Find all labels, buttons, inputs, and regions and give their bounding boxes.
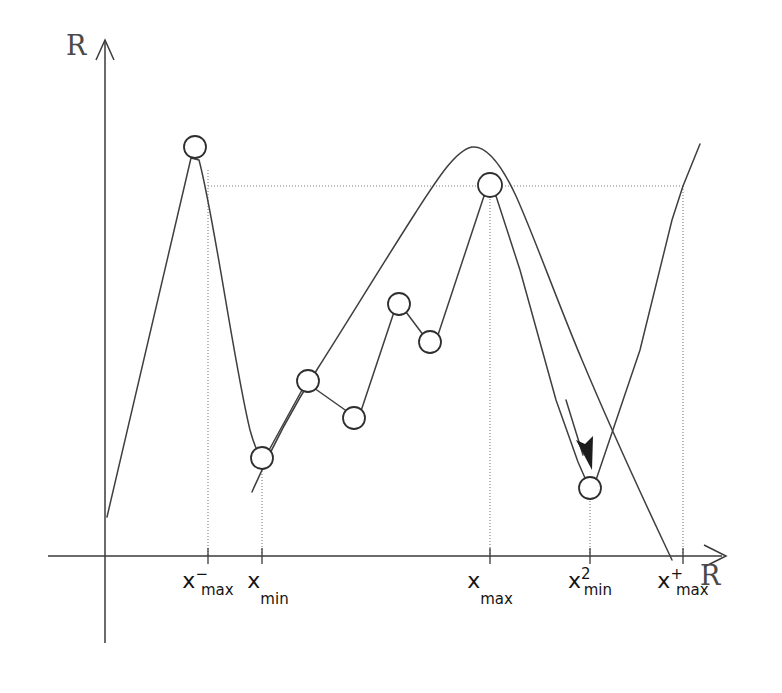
tick-label-x-max: xmax [467,568,513,608]
marker-iterate-3 [297,370,319,392]
tick-sub: max [676,581,709,599]
tick-label-x-min: xmin [247,568,288,608]
tick-base: x [467,568,480,593]
tick-base: x [247,568,260,593]
marker-iterate-6 [419,331,441,353]
guide-lines-group [208,170,683,556]
tick-label-x-min-2: x2min [568,565,612,599]
marker-iterate-5 [388,293,410,315]
tick-label-x-max-minus: x−max [182,565,233,599]
tick-base: x [182,568,195,593]
marker-x-max-minus [184,136,206,158]
tick-sub: max [201,581,234,599]
iterate-path [107,144,700,517]
axes-group [48,40,726,643]
tick-base: x [568,568,581,593]
marker-x-min [251,447,273,469]
vertical-axis-label: R [66,30,87,61]
tick-sub: min [260,590,288,608]
diagram-canvas: R R x−max xmin xmax x2min x+max [0,0,782,693]
marker-x-max [478,173,502,197]
tick-sub: min [584,581,612,599]
marker-x-min-2 [579,477,601,499]
figure-root: R R x−max xmin xmax x2min x+max [0,0,782,693]
envelope-curve [252,147,672,560]
tick-base: x [657,568,670,593]
tick-sub: max [480,590,513,608]
marker-iterate-4 [343,407,365,429]
